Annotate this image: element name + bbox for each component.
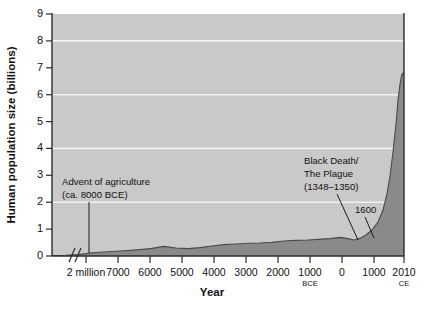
- y-axis-title: Human population size (billions): [5, 46, 17, 223]
- x-tick-label-6: 2000: [266, 266, 290, 278]
- y-tick-label-5: 5: [37, 115, 43, 127]
- annotation-black-death-line-2: The Plague: [304, 168, 353, 179]
- y-tick-label-2: 2: [37, 195, 43, 207]
- x-tick-label-9: 1000: [362, 266, 386, 278]
- annotation-black-death-line-1: Black Death/: [304, 155, 359, 166]
- x-tick-label-5: 3000: [234, 266, 258, 278]
- annotation-agriculture-line-2: (ca. 8000 BCE): [62, 189, 128, 200]
- x-tick-label-10: 2010: [392, 266, 416, 278]
- y-tick-label-8: 8: [37, 34, 43, 46]
- y-tick-label-7: 7: [37, 61, 43, 73]
- x-tick-sub-10: CE: [399, 279, 409, 288]
- x-tick-label-2: 6000: [138, 266, 162, 278]
- chart-canvas: 0 1 2 3 4 5 6 7 8 9: [0, 0, 426, 309]
- y-tick-label-4: 4: [37, 141, 43, 153]
- x-tick-label-3: 5000: [170, 266, 194, 278]
- x-tick-label-7: 1000: [298, 266, 322, 278]
- y-tick-label-9: 9: [37, 7, 43, 19]
- x-tick-label-4: 4000: [202, 266, 226, 278]
- y-axis-ticks: 0 1 2 3 4 5 6 7 8 9: [37, 7, 52, 261]
- y-tick-label-0: 0: [37, 249, 43, 261]
- x-axis-ticks: 2 million 7000 6000 5000 4000 3000 2000 …: [67, 256, 416, 288]
- annotation-agriculture-line-1: Advent of agriculture: [62, 176, 150, 187]
- plot-background: [52, 14, 404, 256]
- y-tick-label-6: 6: [37, 88, 43, 100]
- annotation-1600-label: 1600: [355, 204, 376, 215]
- x-tick-label-1: 7000: [106, 266, 130, 278]
- annotation-black-death-line-3: (1348–1350): [304, 181, 358, 192]
- x-axis-title: Year: [200, 286, 225, 298]
- x-tick-label-0: 2 million: [67, 266, 106, 278]
- x-tick-label-8: 0: [339, 266, 345, 278]
- y-tick-label-1: 1: [37, 222, 43, 234]
- population-chart: 0 1 2 3 4 5 6 7 8 9: [0, 0, 426, 309]
- y-tick-label-3: 3: [37, 168, 43, 180]
- x-tick-sub-7: BCE: [302, 279, 317, 288]
